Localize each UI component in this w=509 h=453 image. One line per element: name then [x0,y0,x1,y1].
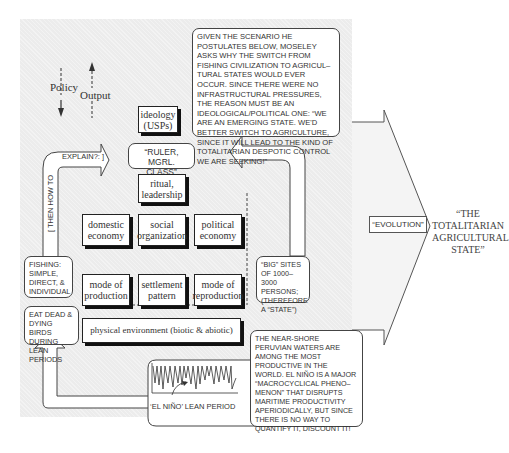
mode-of-reproduction-box: mode ofreproduction [194,274,242,306]
political-line2: economy [200,230,237,241]
domestic-line2: economy [88,230,125,241]
social-line1: social [137,219,187,230]
explain-label: EXPLAIN?: ] [62,152,104,161]
policy-arrow-icon [58,108,64,117]
policy-label: Policy [50,81,78,93]
fishing-note: FISHING: SIMPLE, DIRECT, & INDIVIDUAL [24,256,73,298]
totalitarian-state-label: “THE TOTALITARIAN AGRICULTURAL STATE” [432,208,504,256]
mode-prod-line2: production [84,290,127,301]
output-label: Output [80,89,111,101]
physical-environment-box: physical environment (biotic & abiotic) [82,318,241,343]
ritual-leadership-box: ritual,leadership [138,174,186,203]
peruvian-waters-note: THE NEAR-SHORE PERUVIAN WATERS ARE AMONG… [250,330,363,427]
big-sites-note: “BIG” SITES OF 1000–3000 PERSONS; (THERE… [256,256,310,303]
domestic-economy-box: domesticeconomy [82,214,130,246]
settlement-line2: pattern [141,290,182,301]
evolution-label: “EVOLUTION” [369,216,427,233]
then-how-label: [ THEN HOW TO [46,175,55,232]
settlement-pattern-box: settlementpattern [138,274,186,306]
political-line1: political [200,219,237,230]
eat-dead-birds-note: EAT DEAD & DYING BIRDS DURING LEAN PERIO… [24,306,79,345]
ideology-box: ideology(USPs) [138,106,178,133]
social-line2: organization [137,230,187,241]
domestic-line1: domestic [88,219,125,230]
mode-prod-line1: mode of [84,279,127,290]
moseley-note: GIVEN THE SCENARIO HE POSTULATES BELOW, … [192,28,340,137]
ideology-line1: ideology [141,109,176,120]
settlement-line1: settlement [141,279,182,290]
ruler-class-note: “RULER, MGRL. CLASS” [128,143,195,169]
mode-repro-line1: mode of [192,279,243,290]
output-arrow-icon [89,62,95,71]
ideology-line2: (USPs) [141,120,176,131]
ritual-line1: ritual, [141,178,182,189]
ritual-line2: leadership [141,189,182,200]
mode-repro-line2: reproduction [192,290,243,301]
social-organization-box: socialorganization [138,214,186,246]
political-economy-box: politicaleconomy [194,214,242,246]
mode-of-production-box: mode ofproduction [82,274,130,306]
el-nino-label: ‘EL NIÑO’ LEAN PERIOD [150,402,235,411]
